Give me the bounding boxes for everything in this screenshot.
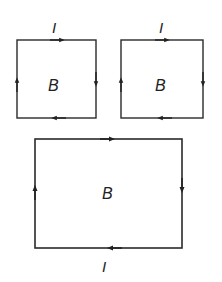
current-label: I — [102, 258, 106, 275]
loop-right: I B — [121, 19, 203, 118]
loop-left: I B — [17, 19, 96, 118]
current-label: I — [159, 19, 163, 36]
current-label: I — [52, 19, 56, 36]
loop-combined: B I — [35, 139, 182, 275]
field-label: B — [155, 77, 166, 94]
field-label: B — [102, 185, 113, 202]
field-label: B — [48, 77, 59, 94]
current-loops-diagram: I B I B B I — [0, 0, 222, 282]
